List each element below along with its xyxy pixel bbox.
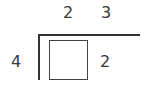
- answer-input-box[interactable]: [49, 40, 88, 80]
- division-bracket-side: [38, 34, 40, 80]
- dividend-digit-ones: 3: [100, 5, 112, 21]
- side-digit: 2: [99, 54, 111, 70]
- dividend-digit-tens: 2: [62, 5, 74, 21]
- divisor: 4: [10, 54, 22, 70]
- division-bracket-top: [38, 34, 140, 36]
